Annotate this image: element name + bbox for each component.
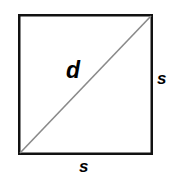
geometry-figure: d s s bbox=[0, 0, 175, 181]
right-side-length-label: s bbox=[157, 70, 166, 87]
figure-drawing bbox=[0, 0, 175, 181]
diagonal-length-label: d bbox=[66, 59, 80, 82]
bottom-side-length-label: s bbox=[79, 158, 88, 175]
